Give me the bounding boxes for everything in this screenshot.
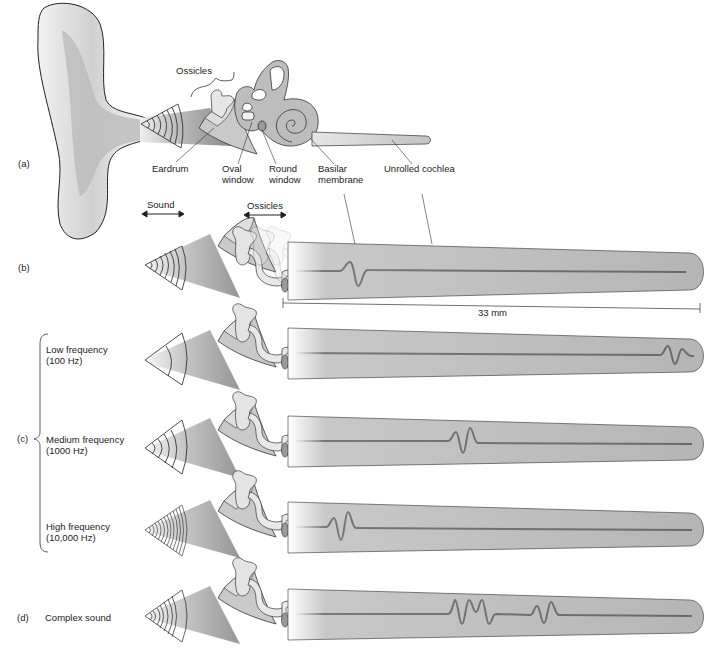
row-b xyxy=(142,211,704,313)
label-sound: Sound xyxy=(147,199,174,210)
label-complex-sound: Complex sound xyxy=(45,612,111,623)
panel-letter-d: (d) xyxy=(17,612,29,623)
panel-letter-c: (c) xyxy=(17,433,28,444)
panel-letter-b: (b) xyxy=(18,262,30,273)
label-round-window: Roundwindow xyxy=(269,163,301,185)
label-oval-window: Ovalwindow xyxy=(222,163,254,185)
panel-letter-a: (a) xyxy=(18,158,30,169)
label-scale-33mm: 33 mm xyxy=(478,307,507,318)
label-eardrum: Eardrum xyxy=(152,163,188,174)
row-c-high xyxy=(145,471,704,558)
figure-drawing xyxy=(0,0,720,660)
auditory-system-figure: (a) Ossicles Eardrum Ovalwindow Roundwin… xyxy=(0,0,720,660)
panel-a-drawing xyxy=(38,3,432,258)
label-unrolled-cochlea: Unrolled cochlea xyxy=(384,163,455,174)
row-d xyxy=(145,558,704,644)
label-medium-frequency: Medium frequency(1000 Hz) xyxy=(46,434,124,456)
label-ossicles-b: Ossicles xyxy=(247,200,283,211)
label-low-frequency: Low frequency(100 Hz) xyxy=(46,344,108,366)
label-high-frequency: High frequency(10,000 Hz) xyxy=(46,521,110,543)
row-c-medium xyxy=(145,392,704,478)
label-ossicles-a: Ossicles xyxy=(176,65,212,76)
label-basilar-membrane: Basilarmembrane xyxy=(318,163,363,185)
row-c-low xyxy=(145,304,704,390)
